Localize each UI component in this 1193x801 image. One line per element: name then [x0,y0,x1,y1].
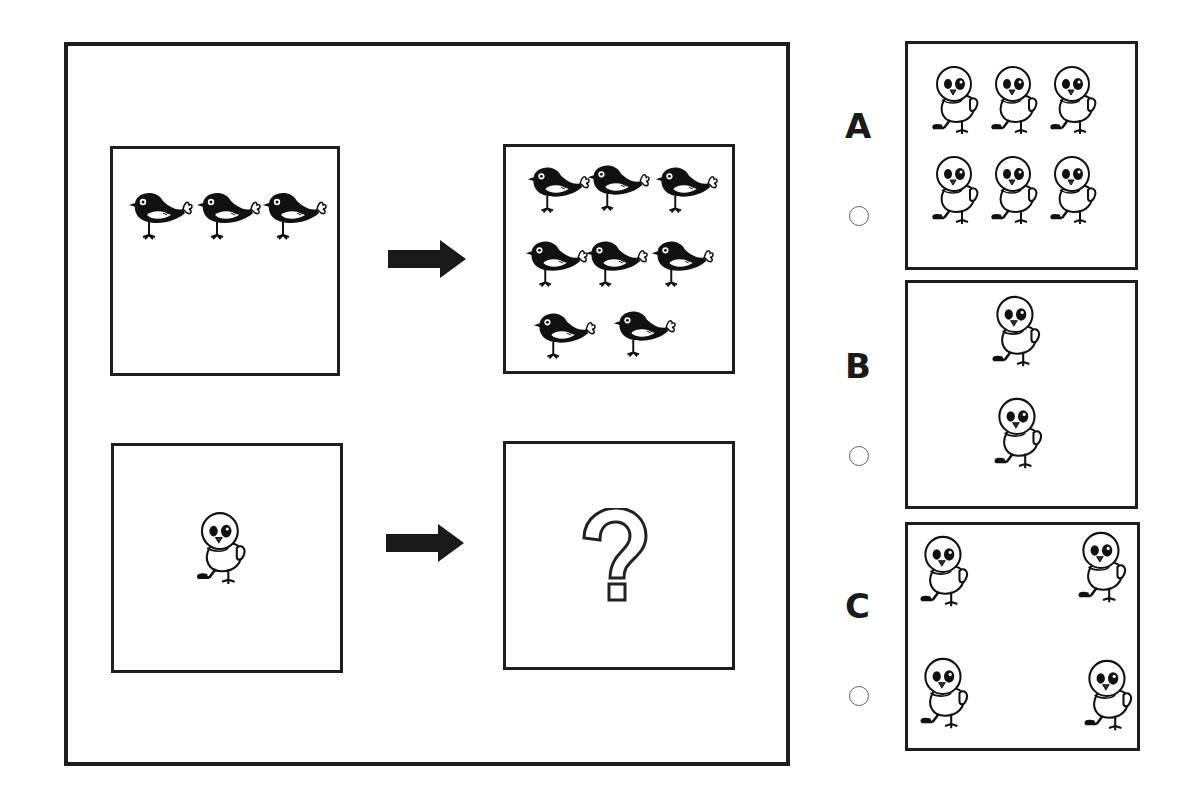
bird-icon [522,163,590,215]
chick-icon [926,64,986,136]
option-a-panel[interactable] [905,41,1138,270]
bird-icon [646,237,714,289]
chick-icon [926,154,986,226]
example-source-panel [110,146,340,376]
example-result-panel [503,144,735,374]
bird-icon [608,307,676,359]
option-b-radio[interactable] [849,446,869,466]
chick-icon [988,395,1050,471]
bird-icon [191,189,261,241]
chick-icon [1044,154,1104,226]
option-c-panel[interactable] [905,522,1140,751]
question-source-panel [111,443,343,673]
bird-icon [520,237,588,289]
bird-icon [580,237,648,289]
chick-icon [985,64,1045,136]
chick-icon [914,655,976,731]
option-c-radio[interactable] [849,686,869,706]
question-mark-icon [576,508,656,608]
option-a-label: A [845,106,871,146]
bird-icon [528,309,596,361]
bird-icon [123,189,193,241]
chick-icon [986,293,1048,369]
bird-icon [650,163,718,215]
arrow-right-icon [384,522,466,564]
arrow-right-icon [386,238,468,280]
bird-icon [582,161,650,213]
chick-icon [1078,657,1140,733]
question-result-panel [503,441,735,670]
option-b-panel[interactable] [905,280,1138,509]
chick-icon [1044,64,1104,136]
bird-icon [257,189,327,241]
chick-icon [190,510,254,586]
option-a-radio[interactable] [849,206,869,226]
chick-icon [985,154,1045,226]
chick-icon [914,533,976,609]
chick-icon [1072,529,1134,605]
option-b-label: B [845,346,871,386]
option-c-label: C [845,586,870,626]
